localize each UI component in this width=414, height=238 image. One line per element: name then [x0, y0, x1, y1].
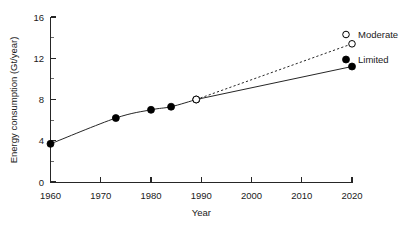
x-tick-label-2010: 2010 [291, 190, 312, 201]
data-point-filled-2020 [349, 63, 356, 70]
data-point-filled-1984 [168, 103, 175, 110]
y-tick-label-0: 0 [39, 177, 44, 188]
legend-label-moderate: Moderate [358, 29, 398, 40]
data-point-open-2020 [349, 41, 356, 48]
y-tick-label-16: 16 [33, 12, 44, 23]
energy-consumption-chart: 16 12 8 4 0 Energy consumption (Gt/year)… [0, 0, 414, 238]
x-tick-label-1960: 1960 [40, 190, 61, 201]
x-tick-label-1990: 1990 [191, 190, 212, 201]
chart-background [0, 0, 414, 238]
x-axis-title: Year [192, 207, 211, 218]
y-tick-label-12: 12 [33, 53, 44, 64]
data-point-filled-1973 [112, 115, 119, 122]
series-markers-moderate [349, 41, 356, 48]
x-tick-label-2000: 2000 [241, 190, 262, 201]
data-point-filled-1980 [148, 106, 155, 113]
legend-marker-limited-filled-circle-icon [343, 56, 350, 63]
legend-marker-moderate-open-circle-icon [343, 31, 350, 38]
x-tick-label-1980: 1980 [140, 190, 161, 201]
legend-label-limited: Limited [358, 54, 389, 65]
series-markers-limited [349, 63, 356, 70]
y-axis-title: Energy consumption (Gt/year) [8, 37, 19, 164]
y-tick-label-8: 8 [39, 94, 44, 105]
data-point-filled-1960 [47, 140, 54, 147]
x-tick-label-2020: 2020 [341, 190, 362, 201]
data-point-branch-1989 [193, 96, 200, 103]
y-tick-label-4: 4 [39, 135, 44, 146]
x-tick-label-1970: 1970 [90, 190, 111, 201]
